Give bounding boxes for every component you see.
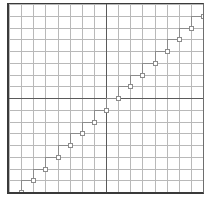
chart-container bbox=[0, 0, 209, 199]
plot-canvas bbox=[9, 4, 203, 192]
plot-frame bbox=[7, 3, 204, 194]
step-series-markers bbox=[20, 15, 204, 193]
